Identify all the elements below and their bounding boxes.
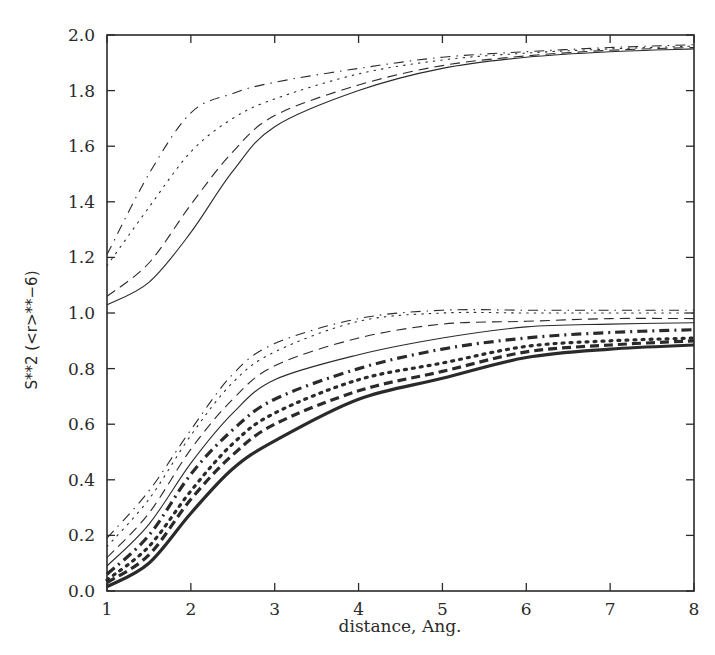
chart-canvas: 12345678 0.00.20.40.60.81.01.21.41.61.82… (0, 0, 715, 655)
curve-lower-thick-dash-dot (107, 330, 694, 575)
curve-lower-dotted (107, 312, 694, 546)
y-tick-labels: 0.00.20.40.60.81.01.21.41.61.82.0 (68, 25, 95, 601)
y-tick-label: 0.8 (68, 359, 95, 379)
x-tick-label: 8 (689, 599, 700, 619)
curve-lower-thick-dotted (107, 338, 694, 580)
x-tick-label: 7 (605, 599, 616, 619)
x-tick-label: 6 (521, 599, 532, 619)
plot-curves (107, 45, 694, 587)
curve-upper-dash-dot (107, 45, 694, 255)
x-axis-title: distance, Ang. (339, 616, 462, 636)
curve-upper-dashed (107, 48, 694, 297)
x-tick-label: 3 (269, 599, 280, 619)
y-tick-label: 1.0 (68, 303, 95, 323)
y-tick-label: 0.0 (68, 581, 95, 601)
y-tick-label: 1.6 (68, 136, 95, 156)
curve-lower-dashed (107, 318, 694, 557)
y-tick-label: 0.2 (68, 525, 95, 545)
curve-lower-thick-dashed (107, 341, 694, 583)
y-tick-label: 1.4 (68, 192, 95, 212)
x-tick-label: 1 (102, 599, 113, 619)
curve-upper-dotted (107, 46, 694, 266)
y-tick-label: 0.4 (68, 470, 95, 490)
y-tick-label: 1.2 (68, 247, 95, 267)
y-tick-label: 2.0 (68, 25, 95, 45)
y-axis-title: S**2 (<r>**−6) (23, 271, 41, 390)
y-tick-label: 0.6 (68, 414, 95, 434)
curve-upper-solid (107, 49, 694, 305)
x-tick-label: 2 (185, 599, 196, 619)
y-tick-label: 1.8 (68, 81, 95, 101)
